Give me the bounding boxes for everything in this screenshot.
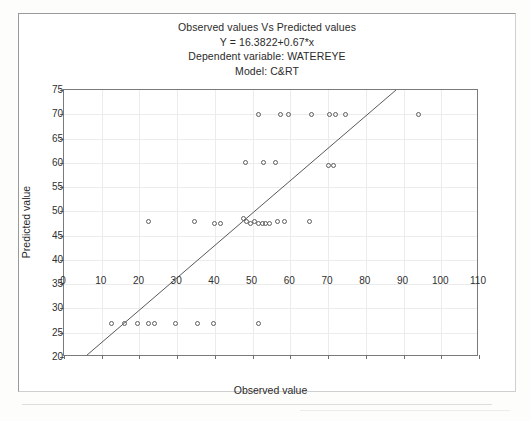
y-axis-tick-label: 30 [52,302,63,313]
data-point [282,219,287,224]
y-axis-tick-label: 70 [52,108,63,119]
data-point [307,219,312,224]
x-axis-tick [441,355,442,359]
chart-title: Observed values Vs Predicted values [18,20,516,35]
y-axis-tick-label: 25 [52,326,63,337]
chart-dependent-variable: Dependent variable: WATEREYE [18,49,516,64]
x-axis-tick-label: 30 [171,275,182,286]
y-axis-tick-label: 55 [52,181,63,192]
x-axis-tick [328,355,329,359]
chart-equation: Y = 16.3822+0.67*x [18,35,516,50]
data-point [256,112,261,117]
data-point [173,321,178,326]
scan-artifact-line-secondary [300,410,510,411]
data-point [309,112,314,117]
y-axis-tick-label: 75 [52,84,63,95]
x-axis-tick [366,355,367,359]
x-axis-tick-label: 40 [208,275,219,286]
y-axis-tick-label: 50 [52,205,63,216]
data-point [343,112,348,117]
x-axis-tick [290,355,291,359]
x-axis-tick-label: 100 [432,275,449,286]
x-axis-tick-label: 60 [284,275,295,286]
x-axis-tick-label: 50 [246,275,257,286]
x-axis-tick-label: 90 [397,275,408,286]
x-axis-tick [404,355,405,359]
x-axis-tick-label: 110 [470,275,486,286]
chart-model: Model: C&RT [18,64,516,79]
data-point [331,163,336,168]
y-axis-tick-label: 40 [52,253,63,264]
x-axis-title: Observed value [63,384,478,396]
data-point [256,321,261,326]
data-point [146,321,151,326]
y-axis-tick-label: 65 [52,132,63,143]
x-axis-tick [139,355,140,359]
data-point [152,321,157,326]
x-axis-tick-label: 70 [322,275,333,286]
y-axis-tick-label: 35 [52,278,63,289]
x-axis-tick [253,355,254,359]
x-axis-tick-label: 10 [95,275,106,286]
data-point [326,163,331,168]
y-axis-tick-label: 60 [52,156,63,167]
y-axis-title: Predicted value [20,186,32,258]
y-axis-tick-label: 20 [52,351,63,362]
plot-area [63,89,478,356]
data-point [211,321,216,326]
x-axis-tick [102,355,103,359]
data-point [333,112,338,117]
data-point [416,112,421,117]
data-point [109,321,114,326]
scanned-page: Observed values Vs Predicted values Y = … [0,0,531,421]
data-point [135,321,140,326]
data-point [275,219,280,224]
x-axis-tick [64,355,65,359]
x-axis-tick [177,355,178,359]
x-axis-tick [479,355,480,359]
data-point [122,321,127,326]
y-axis-tick-label: 45 [52,229,63,240]
regression-line [85,90,396,355]
scan-artifact-line [22,404,492,405]
x-axis-tick-label: 20 [133,275,144,286]
data-point [192,219,197,224]
data-point [286,112,291,117]
data-point [146,219,151,224]
chart-title-block: Observed values Vs Predicted values Y = … [18,20,516,78]
x-axis-tick-label: 80 [359,275,370,286]
data-point [243,160,248,165]
x-axis-tick [215,355,216,359]
